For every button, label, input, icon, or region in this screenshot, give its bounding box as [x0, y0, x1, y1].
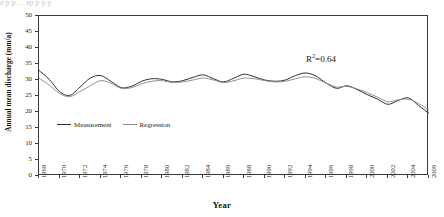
x-tick-label: 1968 [41, 165, 48, 178]
x-tick-label: 1978 [143, 165, 150, 178]
x-tick-label: 1996 [328, 165, 335, 178]
plot-area: R2=0.64 Measurement Regression [38, 15, 428, 175]
x-tick-mark [161, 175, 162, 178]
series-canvas [39, 16, 429, 176]
x-tick-label: 1980 [164, 165, 171, 178]
x-tick-label: 1972 [82, 165, 89, 178]
r-squared-value: =0.64 [315, 54, 336, 64]
x-tick-label: 2000 [369, 165, 376, 178]
x-tick-label: 2006 [431, 165, 438, 178]
legend-item-regression: Regression [123, 121, 171, 128]
series-line-regression [39, 77, 429, 110]
y-tick-label: 5 [10, 156, 32, 163]
x-tick-label: 1986 [225, 165, 232, 178]
x-tick-label: 2002 [390, 165, 397, 178]
x-tick-label: 1998 [348, 165, 355, 178]
x-tick-label: 1974 [102, 165, 109, 178]
x-tick-mark [428, 175, 429, 178]
legend-item-measurement: Measurement [57, 121, 112, 128]
x-tick-label: 1988 [246, 165, 253, 178]
y-tick-label: 15 [10, 124, 32, 131]
x-tick-mark [120, 175, 121, 178]
x-tick-label: 1994 [307, 165, 314, 178]
y-tick-label: 30 [10, 76, 32, 83]
clipped-caption-strip: a p p ... ap p p p [0, 0, 444, 9]
y-tick-label: 40 [10, 44, 32, 51]
x-tick-label: 1984 [205, 165, 212, 178]
x-tick-mark [387, 175, 388, 178]
x-tick-label: 1982 [184, 165, 191, 178]
discharge-time-series-chart: a p p ... ap p p p Annual mean discharge… [0, 0, 444, 217]
y-tick-label: 50 [10, 12, 32, 19]
x-tick-label: 2004 [410, 165, 417, 178]
legend-label-measurement: Measurement [74, 121, 112, 128]
x-tick-label: 1992 [287, 165, 294, 178]
y-tick-label: 25 [10, 92, 32, 99]
y-tick-label: 10 [10, 140, 32, 147]
x-tick-label: 1970 [61, 165, 68, 178]
series-line-measurement [39, 70, 429, 113]
x-tick-mark [79, 175, 80, 178]
x-tick-mark [38, 175, 39, 178]
chart-legend: Measurement Regression [57, 121, 170, 128]
y-tick-label: 35 [10, 60, 32, 67]
x-tick-label: 1976 [123, 165, 130, 178]
y-tick-label: 20 [10, 108, 32, 115]
r-squared-annotation: R2=0.64 [306, 52, 336, 64]
legend-label-regression: Regression [140, 121, 171, 128]
legend-line-swatch-measurement [57, 124, 71, 125]
y-tick-label: 45 [10, 28, 32, 35]
y-tick-label: 0 [10, 172, 32, 179]
x-tick-label: 1990 [266, 165, 273, 178]
legend-line-swatch-regression [123, 124, 137, 125]
x-axis-title: Year [0, 200, 444, 210]
